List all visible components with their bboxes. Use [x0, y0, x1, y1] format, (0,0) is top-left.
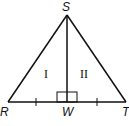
vertex-label-T: T — [122, 105, 129, 119]
side-SR — [8, 15, 67, 102]
vertex-label-R: R — [0, 105, 9, 119]
region-label-II: II — [80, 67, 88, 81]
region-label-I: I — [44, 67, 48, 81]
side-ST — [67, 15, 126, 102]
vertex-label-W: W — [62, 105, 75, 119]
triangle-diagram: S R W T I II — [0, 0, 129, 126]
vertex-label-S: S — [62, 0, 70, 14]
